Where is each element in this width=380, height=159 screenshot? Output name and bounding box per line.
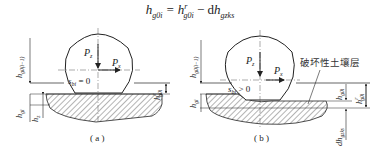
- label-hgi-b: hgi: [188, 99, 199, 108]
- caption-a: ( a ): [90, 133, 105, 143]
- caption-b: ( b ): [254, 133, 269, 143]
- diagram-b: Pz Px sbi > 0 破坏性土壤层 hg0(i−1) hgi hg0i h…: [188, 30, 370, 146]
- label-hz-a: hz: [30, 115, 41, 122]
- label-hr-g0i-a: hrg0i: [151, 89, 163, 100]
- diagram-canvas: Pz Px sbi = 0 hg0(i−1) hgi hz hrg0i ( a …: [0, 0, 380, 159]
- label-hg0-i-1-b: hg0(i−1): [188, 56, 200, 78]
- slip-condition-a: sbi = 0: [68, 76, 91, 87]
- label-hgi-a: hgi: [14, 109, 25, 118]
- diagram-a: Pz Px sbi = 0 hg0(i−1) hgi hz hrg0i ( a …: [14, 28, 170, 143]
- label-destructive-soil-layer: 破坏性土壤层: [300, 57, 360, 68]
- label-hr-g0i-b: hrg0i: [353, 93, 365, 104]
- label-hg0i-b: hg0i: [334, 88, 345, 100]
- label-dh-gzks-b: dhgzks: [334, 128, 345, 146]
- soil-hatched-region-a: [46, 94, 162, 122]
- slip-condition-b: sbi > 0: [228, 84, 251, 95]
- label-hg0-i-1-a: hg0(i−1): [14, 56, 26, 78]
